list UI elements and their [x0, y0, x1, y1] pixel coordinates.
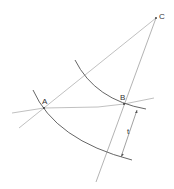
point-c-icon — [155, 17, 157, 19]
point-a-icon — [43, 107, 45, 109]
label-c: C — [159, 12, 165, 21]
diagram-svg: A B C t — [0, 0, 174, 189]
point-b-icon — [123, 103, 125, 105]
label-b: B — [120, 93, 125, 102]
line-c-a — [19, 18, 156, 128]
line-a-b — [12, 98, 154, 113]
geometry-diagram: A B C t — [0, 0, 174, 189]
label-a: A — [42, 97, 48, 106]
